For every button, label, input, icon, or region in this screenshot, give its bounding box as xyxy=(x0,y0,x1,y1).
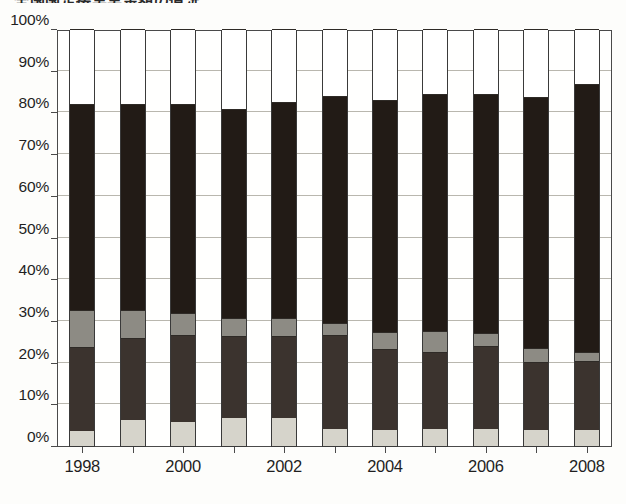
bar-segment-2008-segment-3-mid-gray xyxy=(575,352,599,361)
x-tick-mark-2008 xyxy=(587,447,588,453)
x-tick-mark-2004 xyxy=(385,447,386,453)
bar-series-container xyxy=(57,30,612,447)
y-tick-label-60: 60% xyxy=(19,178,49,196)
x-tick-mark-2007 xyxy=(536,447,537,453)
bar-segment-2002-segment-2-dark-gray xyxy=(272,336,296,417)
x-tick-mark-1999 xyxy=(133,447,134,453)
bar-segment-2004-segment-3-mid-gray xyxy=(373,332,397,350)
bar-segment-2002-segment-3-mid-gray xyxy=(272,318,296,337)
bar-segment-1999-segment-5-white xyxy=(121,29,145,104)
bar-segment-2000-segment-3-mid-gray xyxy=(171,313,195,334)
bar-segment-2002-segment-1-light-gray xyxy=(272,418,296,446)
bar-segment-2001-segment-1-light-gray xyxy=(222,418,246,446)
bar-segment-2006-segment-5-white xyxy=(474,29,498,94)
x-tick-label-2006: 2006 xyxy=(468,457,504,476)
bar-segment-2003-segment-1-light-gray xyxy=(323,429,347,447)
bar-segment-2005-segment-2-dark-gray xyxy=(423,352,447,430)
bar-segment-2008-segment-5-white xyxy=(575,29,599,84)
bar-segment-1998-segment-4-black xyxy=(70,104,94,310)
bar-segment-1999-segment-2-dark-gray xyxy=(121,338,145,420)
y-tick-label-80: 80% xyxy=(19,94,49,112)
bar-segment-2007-segment-3-mid-gray xyxy=(524,348,548,361)
bar-segment-2003-segment-4-black xyxy=(323,96,347,323)
bar-segment-2000-segment-1-light-gray xyxy=(171,422,195,446)
x-tick-mark-2000 xyxy=(183,447,184,453)
bar-segment-2005-segment-4-black xyxy=(423,94,447,330)
bar-segment-2006-segment-3-mid-gray xyxy=(474,333,498,346)
bar-segment-1998-segment-1-light-gray xyxy=(70,431,94,446)
bar-segment-2004-segment-2-dark-gray xyxy=(373,349,397,430)
bar-segment-1999-segment-3-mid-gray xyxy=(121,310,145,338)
bar-segment-2004-segment-5-white xyxy=(373,29,397,100)
bar-1999[interactable] xyxy=(120,30,146,447)
x-tick-label-2000: 2000 xyxy=(165,457,201,476)
y-tick-label-30: 30% xyxy=(19,303,49,321)
bar-2003[interactable] xyxy=(322,30,348,447)
bar-segment-2008-segment-2-dark-gray xyxy=(575,361,599,430)
page-title: 全国国定接実実金額の情況 xyxy=(14,0,200,3)
bar-segment-2007-segment-4-black xyxy=(524,97,548,348)
bar-segment-1998-segment-3-mid-gray xyxy=(70,310,94,347)
bar-2004[interactable] xyxy=(372,30,398,447)
bar-segment-2007-segment-2-dark-gray xyxy=(524,362,548,430)
y-tick-label-100: 100% xyxy=(10,11,49,29)
y-tick-label-90: 90% xyxy=(19,53,49,71)
y-tick-label-10: 10% xyxy=(19,386,49,404)
bar-segment-2006-segment-1-light-gray xyxy=(474,429,498,446)
bar-2001[interactable] xyxy=(221,30,247,447)
x-tick-label-2008: 2008 xyxy=(569,457,605,476)
y-tick-label-70: 70% xyxy=(19,136,49,154)
x-tick-label-1998: 1998 xyxy=(64,457,100,476)
bar-segment-2002-segment-5-white xyxy=(272,29,296,102)
x-tick-mark-2001 xyxy=(234,447,235,453)
bar-segment-2008-segment-4-black xyxy=(575,84,599,353)
bar-segment-2001-segment-3-mid-gray xyxy=(222,318,246,335)
bar-segment-2007-segment-1-light-gray xyxy=(524,430,548,446)
bar-2002[interactable] xyxy=(271,30,297,447)
bar-segment-2000-segment-5-white xyxy=(171,29,195,104)
bar-segment-2003-segment-2-dark-gray xyxy=(323,335,347,428)
x-tick-mark-2003 xyxy=(335,447,336,453)
x-tick-mark-2002 xyxy=(284,447,285,453)
bar-2006[interactable] xyxy=(473,30,499,447)
chart-page: 全国国定接実実金額の情況 0%10%20%30%40%50%60%70%80%9… xyxy=(0,0,626,504)
x-tick-mark-2005 xyxy=(435,447,436,453)
bar-1998[interactable] xyxy=(69,30,95,447)
y-tick-label-40: 40% xyxy=(19,261,49,279)
bar-segment-1999-segment-1-light-gray xyxy=(121,420,145,446)
bar-2007[interactable] xyxy=(523,30,549,447)
bar-segment-1999-segment-4-black xyxy=(121,104,145,310)
bar-segment-2005-segment-5-white xyxy=(423,29,447,94)
bar-segment-2008-segment-1-light-gray xyxy=(575,430,599,446)
bar-segment-2002-segment-4-black xyxy=(272,102,296,318)
x-tick-label-2004: 2004 xyxy=(367,457,403,476)
bar-segment-2003-segment-3-mid-gray xyxy=(323,323,347,335)
bar-segment-2004-segment-4-black xyxy=(373,100,397,332)
bar-segment-2006-segment-4-black xyxy=(474,94,498,333)
bar-segment-2005-segment-3-mid-gray xyxy=(423,331,447,352)
bar-segment-2001-segment-2-dark-gray xyxy=(222,336,246,419)
y-axis: 0%10%20%30%40%50%60%70%80%90%100% xyxy=(0,30,53,447)
bar-segment-2001-segment-4-black xyxy=(222,109,246,318)
y-tick-label-50: 50% xyxy=(19,220,49,238)
x-axis: 199820002002200420062008 xyxy=(57,447,612,503)
bar-2005[interactable] xyxy=(422,30,448,447)
x-tick-label-2002: 2002 xyxy=(266,457,302,476)
bar-2008[interactable] xyxy=(574,30,600,447)
y-tick-label-0: 0% xyxy=(27,428,49,446)
bar-segment-1998-segment-5-white xyxy=(70,29,94,104)
bar-segment-2004-segment-1-light-gray xyxy=(373,430,397,446)
bar-segment-2001-segment-5-white xyxy=(222,29,246,109)
x-tick-mark-2006 xyxy=(486,447,487,453)
bar-segment-2003-segment-5-white xyxy=(323,29,347,96)
bar-segment-2005-segment-1-light-gray xyxy=(423,429,447,446)
bar-2000[interactable] xyxy=(170,30,196,447)
bar-segment-2000-segment-4-black xyxy=(171,104,195,313)
bar-segment-1998-segment-2-dark-gray xyxy=(70,347,94,431)
x-tick-mark-1998 xyxy=(82,447,83,453)
bar-segment-2000-segment-2-dark-gray xyxy=(171,335,195,422)
y-tick-label-20: 20% xyxy=(19,345,49,363)
bar-segment-2006-segment-2-dark-gray xyxy=(474,346,498,429)
bar-segment-2007-segment-5-white xyxy=(524,29,548,97)
